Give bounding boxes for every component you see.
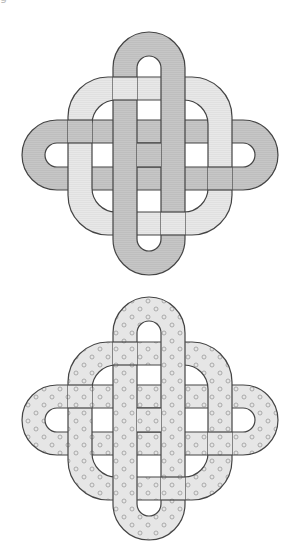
shaded-celtic-knot	[0, 0, 298, 280]
dotted-celtic-knot	[0, 265, 298, 544]
